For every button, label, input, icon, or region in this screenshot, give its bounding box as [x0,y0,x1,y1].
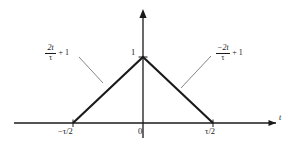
annotation-falling-edge-equation: −2t τ + 1 [216,44,243,62]
x-axis [14,120,276,126]
x-tick-label-pos-tau-half: τ/2 [205,127,215,136]
x-axis-arrowhead [269,120,277,126]
leader-line-left-equation [79,57,103,83]
annotation-rising-edge-equation: 2t τ + 1 [45,44,69,62]
fraction-left: 2t τ [45,44,56,62]
fraction-right-numerator: −2t [216,44,230,53]
fraction-left-numerator: 2t [46,44,54,53]
annotation-right-tail: + 1 [232,49,243,57]
plot-area [0,0,292,150]
fraction-left-denominator: τ [48,54,53,63]
leader-line-right-equation [181,56,211,88]
annotation-left-tail: + 1 [59,49,70,57]
y-tick-label-one: 1 [131,48,135,57]
fraction-right: −2t τ [216,44,230,62]
fraction-right-denominator: τ [220,54,225,63]
y-axis-arrowhead [139,9,146,18]
y-axis [139,9,146,138]
x-tick-label-neg-tau-half: −τ/2 [58,127,73,136]
x-tick-label-origin: 0 [138,127,142,136]
triangular-pulse-figure: 2t τ + 1 −2t τ + 1 1 −τ/2 0 τ/2 t [0,0,292,150]
x-axis-variable-label: t [279,114,281,122]
